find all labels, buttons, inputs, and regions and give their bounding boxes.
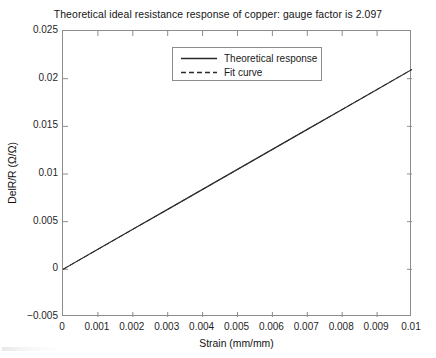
figure-canvas: Theoretical ideal resistance response of… bbox=[0, 0, 436, 358]
y-tick-label: 0.025 bbox=[33, 25, 58, 35]
x-tick-label: 0.006 bbox=[259, 322, 284, 332]
x-tick-label: 0.009 bbox=[364, 322, 389, 332]
chart-title: Theoretical ideal resistance response of… bbox=[0, 8, 436, 21]
scan-artifact bbox=[2, 347, 60, 351]
x-tick-label: 0.001 bbox=[84, 322, 109, 332]
x-tick-label: 0.007 bbox=[294, 322, 319, 332]
x-tick-label: 0 bbox=[59, 322, 65, 332]
y-axis-title: DelR/R (Ω/Ω) bbox=[6, 142, 19, 204]
legend-entry-fit-curve: Fit curve bbox=[173, 66, 321, 79]
x-axis-tick-labels: 00.0010.0020.0030.0040.0050.0060.0070.00… bbox=[0, 322, 436, 336]
x-tick-label: 0.004 bbox=[189, 322, 214, 332]
x-tick-label: 0.002 bbox=[119, 322, 144, 332]
y-tick-label: 0.01 bbox=[39, 168, 58, 178]
legend-solid-line-icon bbox=[181, 53, 217, 64]
y-tick-label: 0 bbox=[52, 263, 58, 273]
x-tick-label: 0.005 bbox=[224, 322, 249, 332]
x-axis-title: Strain (mm/mm) bbox=[62, 337, 411, 350]
y-tick-label: 0.015 bbox=[33, 120, 58, 130]
y-axis-title-container: DelR/R (Ω/Ω) bbox=[4, 30, 20, 316]
x-tick-label: 0.01 bbox=[401, 322, 420, 332]
y-tick-label: 0.02 bbox=[39, 73, 58, 83]
legend-label-theoretical-response: Theoretical response bbox=[224, 53, 317, 64]
y-tick-label: 0.005 bbox=[33, 216, 58, 226]
x-tick-label: 0.008 bbox=[329, 322, 354, 332]
legend-label-fit-curve: Fit curve bbox=[224, 67, 262, 78]
legend: Theoretical response Fit curve bbox=[172, 47, 322, 81]
x-tick-label: 0.003 bbox=[154, 322, 179, 332]
legend-entry-theoretical-response: Theoretical response bbox=[173, 52, 321, 65]
y-tick-label: −0.005 bbox=[27, 311, 58, 321]
legend-dashed-line-icon bbox=[181, 67, 217, 78]
